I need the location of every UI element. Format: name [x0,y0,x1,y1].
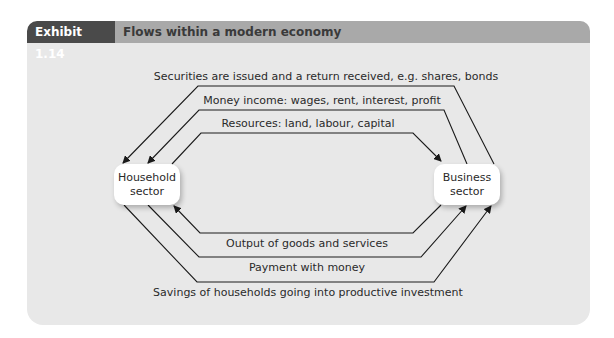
flow-arrow-resources [172,133,441,164]
business-sector-line2: sector [443,185,492,199]
household-sector-box: Household sector [114,164,180,205]
flow-label-resources: Resources: land, labour, capital [221,117,394,130]
flow-label-output: Output of goods and services [226,237,388,250]
flow-label-payment: Payment with money [249,261,365,274]
household-sector-line2: sector [118,185,176,199]
flow-arrow-output [174,205,441,233]
flow-label-securities: Securities are issued and a return recei… [154,70,498,83]
business-sector-box: Business sector [434,164,500,205]
flow-label-savings: Savings of households going into product… [153,286,463,299]
household-sector-line1: Household [118,171,176,185]
flow-label-money-income: Money income: wages, rent, interest, pro… [203,94,440,107]
business-sector-line1: Business [443,171,492,185]
